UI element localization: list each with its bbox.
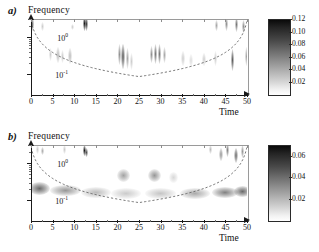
x-tick-minor: [171, 220, 172, 222]
y-tick-minor: [29, 189, 31, 190]
y-tick-minor: [29, 152, 31, 153]
x-tick-label: 50: [236, 223, 258, 232]
x-tick-label: 10: [63, 223, 85, 232]
x-tick-label: 5: [42, 97, 64, 106]
cone-of-influence-curve: [31, 145, 247, 220]
wavelet-scalogram-figure: a) Frequency 0510152025303540455010010-1…: [0, 0, 319, 252]
x-tick-label: 45: [214, 223, 236, 232]
x-tick-minor: [63, 94, 64, 96]
y-tick-minor: [29, 26, 31, 27]
x-tick-top: [139, 145, 140, 148]
x-tick-label: 40: [193, 223, 215, 232]
y-tick-minor: [29, 52, 31, 53]
y-tick-minor: [29, 48, 31, 49]
y-tick-label: 10-1: [55, 195, 68, 206]
y-tick-minor: [29, 145, 31, 146]
x-tick-minor: [171, 94, 172, 96]
colorbar-tick-label: 0.06: [292, 52, 305, 61]
x-tick-top: [225, 19, 226, 22]
x-tick-minor: [215, 94, 216, 96]
x-tick-top: [74, 19, 75, 22]
x-tick-top: [182, 19, 183, 22]
x-tick-label: 40: [193, 97, 215, 106]
x-tick-top: [247, 145, 248, 148]
panel-b: b) Frequency 0510152025303540455010010-1…: [0, 126, 319, 252]
x-tick-label: 50: [236, 97, 258, 106]
y-tick-minor: [29, 178, 31, 179]
panel-a: a) Frequency 0510152025303540455010010-1…: [0, 0, 319, 126]
panel-a-tag: a): [8, 5, 17, 16]
x-tick-top: [117, 19, 118, 22]
x-tick-minor: [193, 220, 194, 222]
y-tick-minor: [29, 39, 31, 40]
y-tick-minor: [29, 43, 31, 44]
x-tick-minor: [107, 94, 108, 96]
colorbar-tick-label: 0.08: [292, 39, 305, 48]
panel-a-plot-area: [31, 19, 247, 94]
x-tick-top: [74, 145, 75, 148]
x-tick-top: [53, 145, 54, 148]
y-tick-label: 10-1: [55, 69, 68, 80]
colorbar-tick-label: 0.04: [292, 64, 305, 73]
y-tick-label: 100: [57, 32, 68, 43]
cone-of-influence-curve: [31, 19, 247, 94]
x-tick-label: 20: [106, 97, 128, 106]
x-tick-label: 35: [171, 97, 193, 106]
x-tick-label: 25: [128, 97, 150, 106]
panel-b-tag: b): [8, 131, 17, 142]
x-tick-top: [247, 19, 248, 22]
x-tick-label: 0: [20, 223, 42, 232]
x-tick-label: 5: [42, 223, 64, 232]
x-tick-label: 30: [150, 97, 172, 106]
colorbar-tick-label: 0.02: [292, 77, 305, 86]
x-tick-label: 20: [106, 223, 128, 232]
colorbar-tick-label: 0.04: [292, 172, 305, 181]
x-tick-top: [117, 145, 118, 148]
x-tick-top: [96, 19, 97, 22]
x-tick-minor: [63, 220, 64, 222]
x-tick-top: [225, 145, 226, 148]
x-tick-top: [161, 145, 162, 148]
x-tick-minor: [236, 94, 237, 96]
x-tick-top: [96, 145, 97, 148]
x-tick-label: 15: [85, 223, 107, 232]
y-tick-minor: [29, 171, 31, 172]
x-tick-minor: [150, 220, 151, 222]
panel-b-y-axis-title: Frequency: [28, 131, 70, 141]
y-tick-minor: [29, 45, 31, 46]
x-tick-top: [31, 145, 32, 148]
x-tick-top: [204, 145, 205, 148]
x-tick-minor: [150, 94, 151, 96]
colorbar-tick-label: 0.06: [292, 151, 305, 160]
x-tick-minor: [107, 220, 108, 222]
y-tick-minor: [29, 174, 31, 175]
x-tick-label: 45: [214, 97, 236, 106]
panel-a-colorbar: [268, 19, 291, 96]
x-tick-top: [204, 19, 205, 22]
x-tick-minor: [42, 94, 43, 96]
panel-b-plot-area: [31, 145, 247, 220]
x-tick-label: 15: [85, 97, 107, 106]
x-tick-minor: [128, 94, 129, 96]
x-tick-top: [161, 19, 162, 22]
y-tick: [27, 200, 31, 201]
y-tick-minor: [29, 165, 31, 166]
panel-a-x-axis-title: Time: [219, 107, 239, 117]
x-tick-top: [31, 19, 32, 22]
panel-a-y-axis-title: Frequency: [28, 5, 70, 15]
y-tick-minor: [29, 63, 31, 64]
panel-b-colorbar: [268, 145, 291, 222]
x-tick-top: [182, 145, 183, 148]
x-tick-minor: [128, 220, 129, 222]
x-tick-label: 10: [63, 97, 85, 106]
x-tick-label: 0: [20, 97, 42, 106]
y-tick-minor: [29, 57, 31, 58]
x-tick-minor: [215, 220, 216, 222]
y-tick: [27, 74, 31, 75]
x-tick-minor: [236, 220, 237, 222]
x-tick-minor: [85, 94, 86, 96]
y-tick-label: 100: [57, 158, 68, 169]
x-tick-minor: [42, 220, 43, 222]
x-tick-minor: [85, 220, 86, 222]
y-tick-minor: [29, 41, 31, 42]
